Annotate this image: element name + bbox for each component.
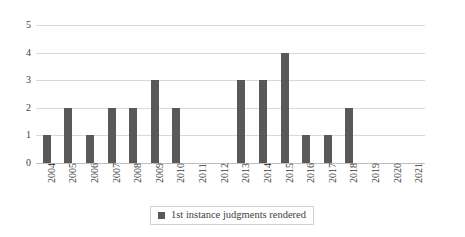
bar-slot [274, 25, 296, 163]
bar-slot [144, 25, 166, 163]
legend-label: 1st instance judgments rendered [171, 210, 306, 221]
bar [237, 80, 245, 163]
plot-area: 012345 [36, 25, 425, 163]
bars-layer [36, 25, 425, 163]
y-axis-tick-label: 1 [26, 130, 31, 140]
bar [151, 80, 159, 163]
bar-slot [339, 25, 361, 163]
bar-slot [382, 25, 404, 163]
bar-slot [295, 25, 317, 163]
bar-slot [36, 25, 58, 163]
y-axis-tick-label: 4 [26, 48, 31, 58]
y-axis-tick-label: 5 [26, 20, 31, 30]
bar-slot [122, 25, 144, 163]
bar-slot [231, 25, 253, 163]
legend-swatch-icon [158, 212, 165, 219]
bar-slot [317, 25, 339, 163]
bar-slot [360, 25, 382, 163]
bar-slot [166, 25, 188, 163]
bar-slot [101, 25, 123, 163]
bar [172, 108, 180, 163]
chart-legend: 1st instance judgments rendered [150, 206, 314, 225]
bar-slot [79, 25, 101, 163]
bar-slot [403, 25, 425, 163]
bar [345, 108, 353, 163]
bar [259, 80, 267, 163]
bar-slot [187, 25, 209, 163]
bar-slot [252, 25, 274, 163]
bar [281, 53, 289, 163]
y-axis-tick-label: 2 [26, 103, 31, 113]
y-axis-tick-label: 0 [26, 158, 31, 168]
x-axis-tick-labels: 2004200520062007200820092010201120122013… [36, 165, 425, 201]
bar-slot [58, 25, 80, 163]
bar [108, 108, 116, 163]
bar [129, 108, 137, 163]
bar-chart: 012345 200420052006200720082009201020112… [0, 0, 465, 237]
bar [64, 108, 72, 163]
bar-slot [209, 25, 231, 163]
y-axis-tick-label: 3 [26, 75, 31, 85]
